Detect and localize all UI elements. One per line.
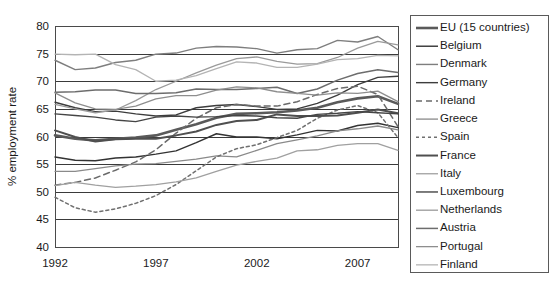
y-tick-label-55: 55 [36,158,49,170]
legend-label-luxembourg: Luxembourg [440,185,504,197]
series-lines [55,37,398,213]
legend-label-france: France [440,149,476,161]
legend-label-finland: Finland [440,258,478,270]
y-tick-label-45: 45 [36,213,49,225]
legend-label-denmark: Denmark [440,57,487,69]
y-tick-label-65: 65 [36,103,49,115]
y-tick-label-70: 70 [36,75,49,87]
legend-label-ireland: Ireland [440,94,475,106]
y-tick-label-50: 50 [36,186,49,198]
x-tick-label-2007: 2007 [345,257,371,269]
legend-box [410,15,548,272]
series-line-france [55,109,398,141]
y-tick-label-80: 80 [36,20,49,32]
series-line-italy [55,144,398,188]
x-tick-label-2002: 2002 [244,257,270,269]
legend-label-italy: Italy [440,167,461,179]
legend-label-austria: Austria [440,221,476,233]
x-tick-label-1997: 1997 [143,257,169,269]
x-axis-tick-labels: 1992199720022007 [42,257,370,269]
legend-label-germany: Germany [440,76,488,88]
employment-rate-line-chart: 404550556065707580 1992199720022007 % em… [0,0,554,288]
y-axis-tick-labels: 404550556065707580 [36,20,49,253]
series-line-luxembourg [55,112,398,122]
legend-label-netherlands: Netherlands [440,203,502,215]
y-axis-title: % employment rate [6,87,18,186]
legend-label-eu-15-countries: EU (15 countries) [440,21,530,33]
y-tick-label-75: 75 [36,48,49,60]
series-line-germany [55,76,398,116]
legend-label-portugal: Portugal [440,240,483,252]
series-line-belgium [55,123,398,161]
x-tick-label-1992: 1992 [42,257,68,269]
legend-label-greece: Greece [440,112,478,124]
y-tick-label-60: 60 [36,131,49,143]
y-tick-label-40: 40 [36,241,49,253]
chart-figure: 404550556065707580 1992199720022007 % em… [0,0,554,288]
legend-label-spain: Spain [440,130,469,142]
legend-label-belgium: Belgium [440,39,482,51]
